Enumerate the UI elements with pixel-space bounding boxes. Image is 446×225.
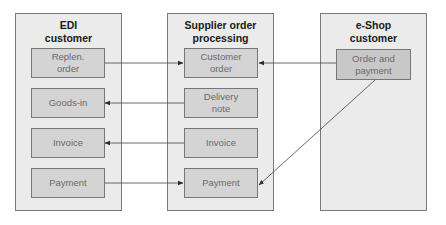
arrow-layer xyxy=(0,0,446,225)
arrow-eshop-to-payment xyxy=(259,80,375,185)
